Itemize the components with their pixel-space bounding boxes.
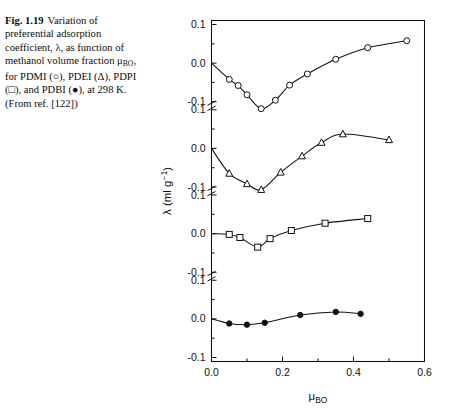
series-pdpi [212, 216, 371, 251]
data-point-marker [287, 82, 293, 88]
data-point-marker [365, 45, 371, 51]
figure-caption: Fig. 1.19Variation of preferential adsor… [5, 14, 148, 110]
y-tick-label: 0.1 [191, 103, 206, 115]
data-point-marker [272, 97, 278, 103]
x-tick-label: 0.6 [417, 366, 432, 378]
y-axis-title: λ (ml g−1) [159, 167, 173, 215]
series-pdmi [212, 38, 410, 112]
data-point-marker [365, 216, 371, 222]
figure-number: Fig. 1.19 [5, 15, 44, 26]
series-pdei [212, 130, 393, 192]
data-point-marker [358, 311, 363, 316]
y-tick-label: 0.1 [191, 189, 206, 201]
x-axis-title: μBO [309, 390, 328, 405]
data-point-marker [235, 83, 241, 89]
caption-line-2: preferential adsorption [5, 28, 101, 39]
data-point-marker [277, 169, 284, 176]
y-axis: 0.10.0-0.10.10.0-0.10.10.0-0.10.10.0-0.1 [187, 18, 216, 363]
data-point-marker [244, 180, 251, 187]
data-point-marker [318, 139, 325, 146]
svg-text:μBO: μBO [309, 390, 328, 405]
data-point-marker [267, 236, 273, 242]
data-point-marker [299, 152, 306, 159]
plot-frame [212, 21, 425, 362]
preferential-adsorption-chart: 0.10.0-0.10.10.0-0.10.10.0-0.10.10.0-0.1… [155, 0, 457, 415]
y-tick-label: 0.1 [191, 274, 206, 286]
caption-line-3: coefficient, λ, as function of [5, 42, 124, 53]
y-tick-label: 0.0 [191, 142, 206, 154]
x-tick-label: 0.2 [275, 366, 290, 378]
data-point-marker [237, 234, 243, 240]
y-tick-label: 0.0 [191, 227, 206, 239]
x-axis: 0.00.20.40.6 [204, 357, 432, 378]
data-point-marker [258, 186, 265, 193]
data-point-marker [333, 56, 339, 62]
caption-line-4: methanol volume fraction [5, 55, 114, 66]
y-tick-label: 0.0 [191, 312, 206, 324]
data-point-marker [298, 312, 303, 317]
caption-line-1: Variation of [48, 15, 98, 26]
x-tick-label: 0.0 [204, 366, 219, 378]
data-point-marker [244, 92, 250, 98]
data-point-marker [304, 71, 310, 77]
data-point-marker [244, 322, 249, 327]
data-point-marker [226, 76, 232, 82]
data-point-marker [288, 228, 294, 234]
data-point-marker [226, 231, 232, 237]
x-tick-label: 0.4 [346, 366, 361, 378]
y-tick-label: -0.1 [187, 351, 205, 363]
svg-text:λ (ml g−1): λ (ml g−1) [159, 167, 173, 215]
series-pdbi [212, 309, 364, 327]
data-point-marker [258, 106, 264, 112]
caption-mu-subscript: BO [123, 59, 134, 68]
data-point-marker [255, 244, 261, 250]
data-point-marker [404, 38, 410, 44]
data-point-marker [339, 130, 346, 137]
chart-figure: 0.10.0-0.10.10.0-0.10.10.0-0.10.10.0-0.1… [155, 0, 457, 415]
y-tick-label: 0.0 [191, 57, 206, 69]
data-point-marker [262, 320, 267, 325]
series-curve [212, 134, 390, 190]
data-point-marker [227, 321, 232, 326]
data-point-marker [333, 309, 338, 314]
data-series-group [212, 38, 410, 328]
y-tick-label: 0.1 [191, 18, 206, 30]
data-point-marker [322, 220, 328, 226]
